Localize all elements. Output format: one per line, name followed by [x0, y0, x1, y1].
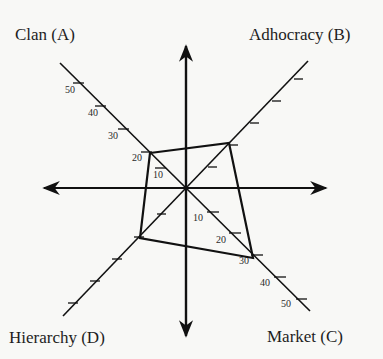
market-tick-10: 10 [193, 212, 203, 223]
clan-tick-40: 40 [88, 107, 98, 118]
market-tick-40: 40 [260, 277, 270, 288]
market-ticks [207, 212, 307, 299]
clan-tick-10: 10 [153, 169, 163, 180]
clan-tick-50: 50 [65, 84, 75, 95]
adhocracy-ticks [208, 79, 303, 167]
market-tick-20: 20 [216, 234, 226, 245]
clan-tick-20: 20 [132, 152, 142, 163]
hierarchy-ticks [68, 214, 166, 303]
clan-tick-30: 30 [108, 130, 118, 141]
market-tick-labels: 10 20 30 40 50 [193, 212, 291, 309]
cvf-diagram: 10 20 30 40 50 10 20 30 40 50 [0, 0, 383, 359]
market-tick-50: 50 [281, 298, 291, 309]
